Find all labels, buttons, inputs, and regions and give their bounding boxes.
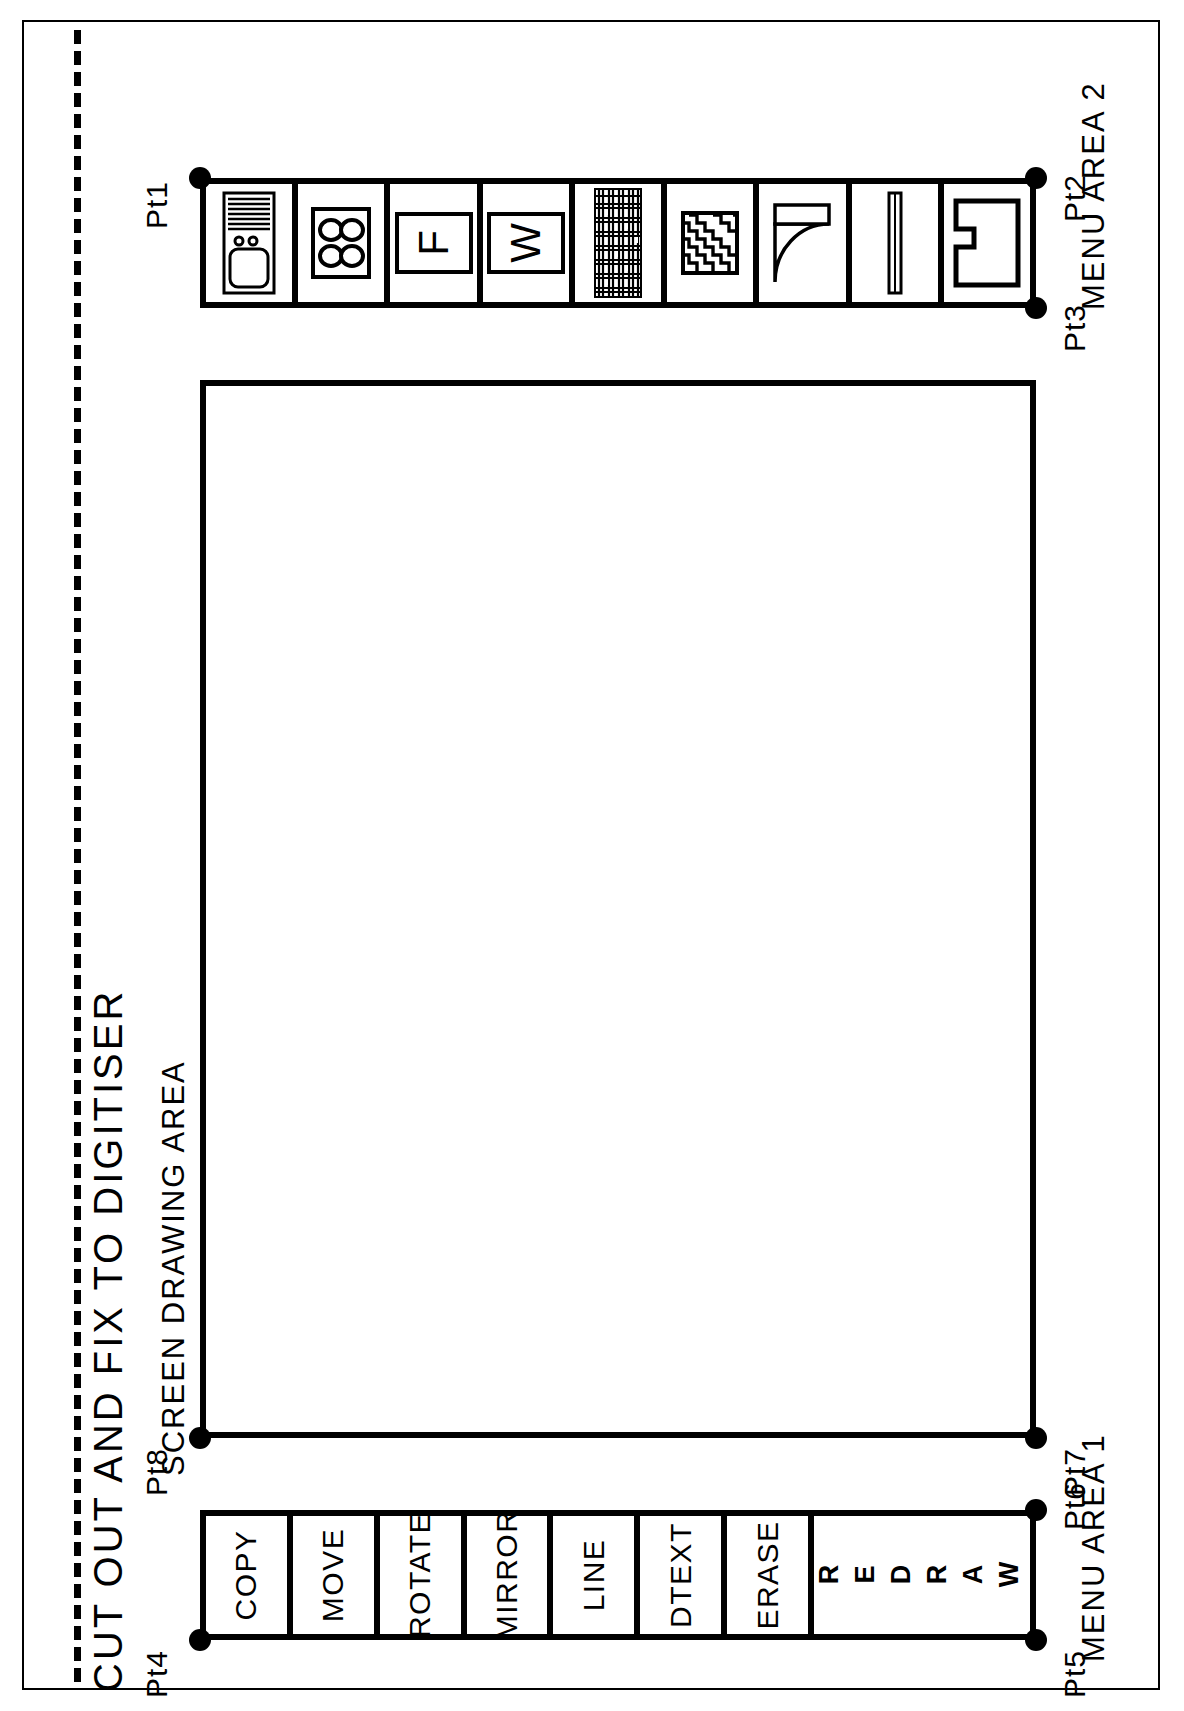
point-marker-pt3 (1025, 297, 1047, 319)
point-label-pt1: Pt1 (140, 180, 174, 228)
menu2-button-erase[interactable]: ERASE (727, 1516, 814, 1634)
menu1-button-brick-hatch[interactable] (575, 184, 667, 302)
point-marker-pt4 (189, 1629, 211, 1651)
fridge-f-icon: F (395, 212, 473, 274)
caption-screen-drawing-area: SCREEN DRAWING AREA (156, 1060, 192, 1476)
point-label-pt2: Pt2 (1058, 173, 1092, 221)
point-marker-pt5 (1025, 1629, 1047, 1651)
menu2-label-dtext: DTEXT (664, 1522, 698, 1628)
point-label-pt5: Pt5 (1058, 1649, 1092, 1697)
menu2-label-rotate: ROTATE (403, 1511, 437, 1637)
menu2-label-copy: COPY (229, 1529, 263, 1620)
menu1-button-window-bar[interactable] (852, 184, 944, 302)
point-marker-pt8 (189, 1427, 211, 1449)
insulation-hatch-icon (681, 211, 739, 275)
point-label-pt7: Pt7 (1058, 1447, 1092, 1495)
menu1-button-fridge[interactable]: F (390, 184, 482, 302)
menu2-label-redraw: REDRAW (814, 1559, 1030, 1590)
point-label-pt8: Pt8 (140, 1447, 174, 1495)
menu2-button-redraw[interactable]: REDRAW (814, 1516, 1030, 1634)
page-title: CUT OUT AND FIX TO DIGITISER (86, 988, 131, 1691)
point-marker-pt2 (1025, 167, 1047, 189)
digitiser-template-sheet: CUT OUT AND FIX TO DIGITISER SCREEN DRAW… (80, 60, 1140, 1700)
menu-area-1: F W (200, 178, 1036, 308)
point-marker-pt1 (189, 167, 211, 189)
menu1-button-cooker-oven[interactable] (206, 184, 298, 302)
menu1-button-door-swing[interactable] (759, 184, 851, 302)
menu2-button-rotate[interactable]: ROTATE (380, 1516, 467, 1634)
menu2-button-line[interactable]: LINE (553, 1516, 640, 1634)
door-swing-icon (771, 200, 833, 286)
menu1-button-washer[interactable]: W (483, 184, 575, 302)
menu1-button-hob[interactable] (298, 184, 390, 302)
hob-four-ring-icon (310, 206, 372, 280)
point-marker-pt6 (1025, 1499, 1047, 1521)
menu2-button-mirror[interactable]: MIRROR (467, 1516, 554, 1634)
cooker-oven-icon (222, 191, 276, 295)
menu2-label-mirror: MIRROR (490, 1509, 524, 1640)
menu1-button-insulation-hatch[interactable] (667, 184, 759, 302)
menu2-label-line: LINE (577, 1538, 611, 1611)
menu2-label-move: MOVE (316, 1527, 350, 1621)
point-label-pt3: Pt3 (1058, 303, 1092, 351)
brickwork-hatch-icon (594, 188, 642, 298)
point-label-pt4: Pt4 (140, 1649, 174, 1697)
point-marker-pt7 (1025, 1427, 1047, 1449)
menu2-label-erase: ERASE (751, 1520, 785, 1629)
window-bar-icon (886, 191, 904, 295)
menu1-button-sink-polygon[interactable] (944, 184, 1030, 302)
sink-polygon-icon (952, 197, 1022, 289)
menu-area-2: COPY MOVE ROTATE MIRROR LINE DTEXT ERASE… (200, 1510, 1036, 1640)
menu2-button-move[interactable]: MOVE (293, 1516, 380, 1634)
screen-drawing-area[interactable] (200, 380, 1036, 1438)
menu2-button-dtext[interactable]: DTEXT (640, 1516, 727, 1634)
washer-w-icon: W (487, 212, 565, 274)
menu2-button-copy[interactable]: COPY (206, 1516, 293, 1634)
